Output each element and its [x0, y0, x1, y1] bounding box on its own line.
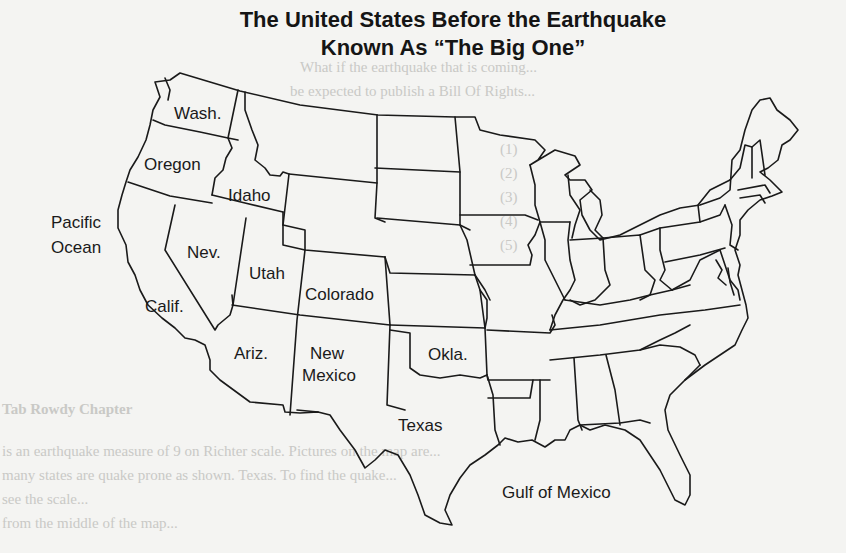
worksheet-page: What if the earthquake that is coming...…	[0, 0, 846, 553]
label-california: Calif.	[145, 297, 184, 317]
label-pacific-ocean: Ocean	[51, 238, 101, 258]
label-texas: Texas	[398, 416, 442, 436]
label-oklahoma: Okla.	[428, 345, 468, 365]
label-nevada: Nev.	[187, 243, 221, 263]
label-washington: Wash.	[174, 104, 222, 124]
label-gulf-of-mexico: Gulf of Mexico	[502, 483, 611, 503]
label-utah: Utah	[249, 264, 285, 284]
label-pacific-ocean: Pacific	[51, 213, 101, 233]
label-oregon: Oregon	[144, 155, 201, 175]
us-map	[0, 0, 846, 553]
label-arizona: Ariz.	[234, 344, 268, 364]
us-outline	[118, 73, 798, 525]
label-colorado: Colorado	[305, 285, 374, 305]
label-new-mexico: New	[310, 344, 344, 364]
label-idaho: Idaho	[228, 186, 271, 206]
label-new-mexico: Mexico	[302, 366, 356, 386]
